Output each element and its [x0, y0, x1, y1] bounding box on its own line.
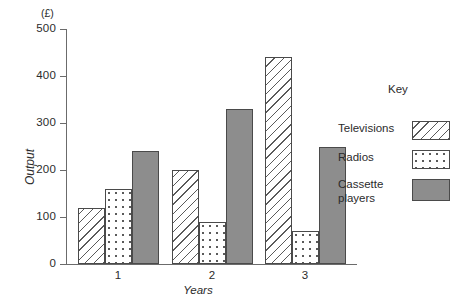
- bar-televisions-year-3: [265, 57, 292, 264]
- legend-item-televisions: Televisions: [338, 122, 453, 144]
- x-tick-label-3: 3: [290, 269, 320, 281]
- bar-cassette-players-year-2: [226, 109, 253, 264]
- legend-label-radios: Radios: [338, 151, 410, 164]
- legend-title: Key: [388, 83, 408, 95]
- bar-radios-year-1: [105, 189, 132, 264]
- legend-item-radios: Radios: [338, 151, 453, 173]
- legend-swatch-cassette-players: [412, 179, 450, 201]
- x-axis-line: [66, 264, 357, 265]
- legend-swatch-radios: [412, 150, 450, 169]
- x-axis-title: Years: [140, 284, 256, 296]
- legend-label-cassette-players: Cassette players: [338, 178, 410, 205]
- x-tick-label-2: 2: [197, 269, 227, 281]
- bar-chart-figure: (£) Output 500 400 300 200 100 0 1 2 3 Y…: [0, 0, 457, 303]
- legend-item-cassette-players: Cassette players: [338, 178, 453, 208]
- bar-televisions-year-1: [78, 208, 105, 264]
- bar-cassette-players-year-1: [132, 151, 159, 264]
- bar-televisions-year-2: [172, 170, 199, 264]
- bar-radios-year-3: [292, 231, 319, 264]
- legend-label-cassette-line2: players: [338, 192, 375, 204]
- x-tick-label-1: 1: [103, 269, 133, 281]
- legend-swatch-televisions: [412, 121, 450, 140]
- y-tick-mark-0: [60, 264, 66, 265]
- legend-label-televisions: Televisions: [338, 122, 410, 135]
- legend-label-cassette-line1: Cassette: [338, 178, 383, 190]
- bar-radios-year-2: [199, 222, 226, 264]
